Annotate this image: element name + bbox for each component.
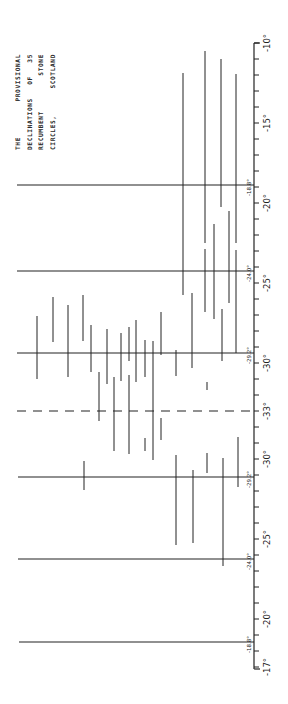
axis-tick-label: -20° <box>262 194 272 212</box>
axis-tick-label: -25° <box>262 530 272 548</box>
title-line-2: DECLINATIONS OF 35 <box>24 54 36 150</box>
axis-tick-label: -17° <box>262 658 272 676</box>
reference-line-label: -18.8° <box>246 179 252 196</box>
axis-tick-label: -20° <box>262 610 272 628</box>
reference-line-labels: -18.8°-24.0°-29.2°-29.2°-24.0°-18.8° <box>246 179 252 653</box>
reference-line-label: -18.8° <box>246 636 252 653</box>
reference-line-label: -29.2° <box>246 347 252 364</box>
axis-tick-label: -15° <box>262 114 272 132</box>
reference-line-label: -29.2° <box>246 471 252 488</box>
axis-tick-label: -30° <box>262 354 272 372</box>
reference-line-label: -24.0° <box>246 553 252 570</box>
axis-tick-label: -10° <box>262 34 272 52</box>
title-line-1: THE PROVISIONAL <box>12 54 24 150</box>
title-line-3: RECUMBENT STONE <box>35 54 47 150</box>
declination-axis <box>254 43 260 669</box>
axis-tick-label: -25° <box>262 274 272 292</box>
reference-line-label: -24.0° <box>246 265 252 282</box>
declination-ranges <box>37 51 238 566</box>
title-line-4: CIRCLES, SCOTLAND <box>47 54 59 150</box>
axis-tick-labels: -10°-15°-20°-25°-30°-33°-30°-25°-20°-17° <box>262 34 272 676</box>
chart-title: THE PROVISIONAL DECLINATIONS OF 35 RECUM… <box>12 54 58 150</box>
reference-lines <box>17 185 254 642</box>
axis-tick-label: -33° <box>262 402 272 420</box>
axis-tick-label: -30° <box>262 450 272 468</box>
